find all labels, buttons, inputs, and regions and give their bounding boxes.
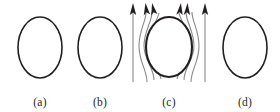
arrowhead-4 xyxy=(176,3,184,16)
figure-panel-c: (c) xyxy=(125,0,213,112)
ellipse-diagram-d xyxy=(205,0,280,92)
ellipse-outline xyxy=(146,17,192,77)
panel-label-c: (c) xyxy=(125,97,213,109)
figure-panel-d: (d) xyxy=(205,0,280,112)
ellipse-outline xyxy=(78,17,122,78)
arrowhead-5 xyxy=(184,3,191,16)
arrowheads-group xyxy=(130,3,208,16)
figure-panel-series: (a) (b) xyxy=(0,0,280,112)
panel-label-d: (d) xyxy=(205,97,280,109)
ellipse-outline xyxy=(223,17,267,78)
arrowhead-3 xyxy=(149,3,157,16)
ellipse-outline xyxy=(18,17,62,78)
ellipse-field-diagram-c xyxy=(125,0,213,92)
